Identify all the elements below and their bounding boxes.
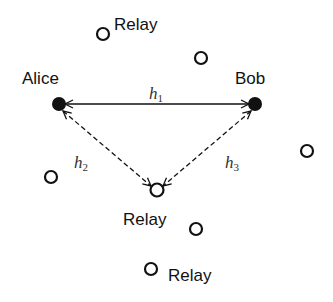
edge-label-h3: h3 <box>225 153 240 173</box>
relay-node-unlabeled <box>190 223 202 235</box>
edge-label-h2: h2 <box>74 153 88 173</box>
bob-node <box>248 97 262 111</box>
alice-node <box>52 97 66 111</box>
bob-label: Bob <box>235 69 265 88</box>
relay-network-diagram: h1 h2 h3 Alice Bob Relay Relay Relay <box>0 0 333 302</box>
alice-label: Alice <box>22 69 59 88</box>
edge-h2 <box>63 111 151 186</box>
relay-label-center: Relay <box>123 210 167 229</box>
edge-label-h1: h1 <box>149 84 163 104</box>
relay-node-unlabeled <box>301 145 313 157</box>
relay-node-unlabeled <box>195 52 207 64</box>
relay-label-top: Relay <box>114 15 158 34</box>
relay-label-bottom: Relay <box>168 266 212 285</box>
relay-node-unlabeled <box>45 171 57 183</box>
relay-node-top <box>97 28 109 40</box>
relay-node-bottom <box>145 263 157 275</box>
relay-node-center <box>151 184 164 197</box>
edge-h3 <box>163 111 251 186</box>
